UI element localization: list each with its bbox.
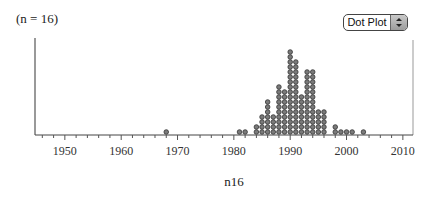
data-dot [294,65,299,70]
data-dot [316,115,321,120]
data-dot [260,115,265,120]
data-dot [310,125,315,130]
data-dot [294,75,299,80]
dot-series [164,50,366,135]
data-dot [265,105,270,110]
data-dot [277,85,282,90]
data-dot [294,90,299,95]
data-dot [299,130,304,135]
data-dot [294,80,299,85]
data-dot [299,110,304,115]
data-dot [333,130,338,135]
data-dot [305,90,310,95]
data-dot [305,85,310,90]
data-dot [350,130,355,135]
data-dot [277,90,282,95]
data-dot [277,120,282,125]
data-dot [344,130,349,135]
data-dot [277,125,282,130]
x-axis: 1950196019701980199020002010 [42,135,415,158]
x-tick-label: 1960 [109,144,133,158]
data-dot [288,50,293,55]
data-dot [316,110,321,115]
data-dot [305,105,310,110]
data-dot [305,120,310,125]
data-dot [316,120,321,125]
data-dot [260,120,265,125]
data-dot [299,95,304,100]
data-dot [322,110,327,115]
data-dot [294,85,299,90]
data-dot [282,130,287,135]
data-dot [277,115,282,120]
data-dot [294,100,299,105]
x-tick-label: 2010 [391,144,415,158]
data-dot [299,100,304,105]
data-dot [310,130,315,135]
data-dot [260,130,265,135]
data-dot [305,95,310,100]
data-dot [282,110,287,115]
data-dot [265,110,270,115]
data-dot [277,130,282,135]
data-dot [294,130,299,135]
data-dot [288,130,293,135]
data-dot [310,85,315,90]
data-dot [277,105,282,110]
data-dot [288,100,293,105]
data-dot [305,110,310,115]
data-dot [316,125,321,130]
data-dot [282,95,287,100]
data-dot [288,90,293,95]
data-dot [310,75,315,80]
data-dot [282,90,287,95]
data-dot [288,115,293,120]
data-dot [294,110,299,115]
data-dot [305,125,310,130]
data-dot [288,80,293,85]
data-dot [299,120,304,125]
data-dot [254,125,259,130]
data-dot [333,125,338,130]
data-dot [282,120,287,125]
data-dot [310,90,315,95]
data-dot [288,105,293,110]
data-dot [271,125,276,130]
data-dot [299,125,304,130]
data-dot [294,70,299,75]
data-dot [277,100,282,105]
data-dot [288,75,293,80]
data-dot [305,75,310,80]
data-dot [164,130,169,135]
data-dot [265,115,270,120]
data-dot [288,110,293,115]
data-dot [305,80,310,85]
x-tick-label: 2000 [335,144,359,158]
data-dot [288,55,293,60]
data-dot [305,130,310,135]
data-dot [265,125,270,130]
data-dot [271,120,276,125]
data-dot [243,130,248,135]
data-dot [282,115,287,120]
data-dot [305,100,310,105]
plot-frame [35,38,413,135]
data-dot [265,120,270,125]
data-dot [288,70,293,75]
data-dot [310,115,315,120]
data-dot [288,65,293,70]
data-dot [305,70,310,75]
data-dot [310,95,315,100]
data-dot [288,95,293,100]
data-dot [277,110,282,115]
data-dot [277,95,282,100]
data-dot [237,130,242,135]
data-dot [339,130,344,135]
x-tick-label: 1990 [278,144,302,158]
data-dot [322,115,327,120]
data-dot [310,100,315,105]
data-dot [288,60,293,65]
x-tick-label: 1950 [53,144,77,158]
data-dot [361,130,366,135]
x-tick-label: 1980 [222,144,246,158]
